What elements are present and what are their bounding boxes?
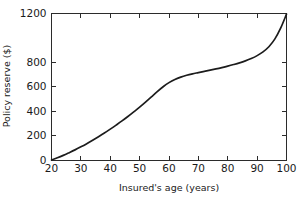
x-tick-label-100: 100 <box>276 162 296 174</box>
policy-reserve-curve <box>52 14 287 160</box>
y-axis-ticks <box>52 14 287 161</box>
chart-figure: 2030405060708090100 02004006008001200 In… <box>0 0 303 199</box>
y-tick-label-800: 800 <box>26 56 46 68</box>
policy-reserve-line-chart: 2030405060708090100 02004006008001200 In… <box>0 0 303 199</box>
x-axis-ticks <box>52 14 287 161</box>
x-tick-label-40: 40 <box>104 162 117 174</box>
y-axis-title: Policy reserve ($) <box>1 45 12 128</box>
x-tick-label-90: 90 <box>250 162 263 174</box>
y-tick-label-600: 600 <box>26 80 46 92</box>
y-tick-label-400: 400 <box>26 105 46 117</box>
y-tick-label-200: 200 <box>26 129 46 141</box>
x-axis-tick-labels: 2030405060708090100 <box>45 162 297 174</box>
axes-frame <box>52 14 287 161</box>
y-tick-label-0: 0 <box>40 154 47 166</box>
x-tick-label-80: 80 <box>221 162 234 174</box>
y-tick-label-1200: 1200 <box>20 7 47 19</box>
x-tick-label-50: 50 <box>133 162 146 174</box>
x-tick-label-30: 30 <box>74 162 87 174</box>
x-axis-title: Insured's age (years) <box>119 182 219 193</box>
x-tick-label-60: 60 <box>162 162 175 174</box>
x-tick-label-20: 20 <box>45 162 58 174</box>
y-axis-tick-labels: 02004006008001200 <box>20 7 47 166</box>
x-tick-label-70: 70 <box>192 162 205 174</box>
plot-frame <box>52 14 287 161</box>
